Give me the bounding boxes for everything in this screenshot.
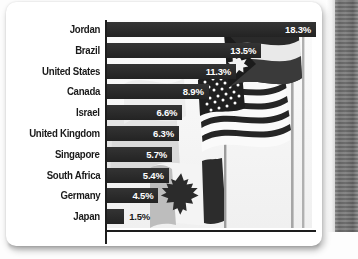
bar-value-label: 18.3% — [285, 22, 311, 37]
bar-row: United Kingdom6.3% — [20, 126, 316, 141]
scan-binding-edge — [335, 0, 358, 232]
bar-value-label: 6.3% — [153, 126, 174, 141]
bar-row: Singapore5.7% — [20, 147, 316, 162]
bar-category-label: Brazil — [75, 43, 100, 58]
bar-category-label: United Kingdom — [29, 126, 100, 141]
bar: 8.9% — [107, 84, 209, 99]
bar-value-label: 11.3% — [206, 64, 231, 79]
bar-row: South Africa5.4% — [20, 168, 316, 183]
bar-row: Jordan18.3% — [20, 22, 316, 37]
bar-value-label: 4.5% — [133, 188, 154, 203]
bar: 13.5% — [107, 43, 261, 58]
bar: 5.7% — [107, 147, 172, 162]
bar-row: Germany4.5% — [20, 188, 316, 203]
bar: 6.3% — [107, 126, 179, 141]
bar: 5.4% — [107, 168, 169, 183]
bar-category-label: Israel — [76, 105, 100, 120]
book-page-card: Jordan18.3%Brazil13.5%United States11.3%… — [6, 2, 322, 246]
bar: 6.6% — [107, 105, 182, 120]
bar-value-label: 13.5% — [230, 43, 256, 58]
bar-category-label: United States — [42, 64, 100, 79]
bar-texture — [107, 209, 124, 224]
bar-row: Japan1.5% — [20, 209, 316, 224]
bar-value-label: 1.5% — [129, 209, 150, 224]
bar-category-label: Japan — [73, 209, 100, 224]
bar-category-label: Germany — [60, 188, 100, 203]
bar — [107, 209, 124, 224]
bar: 18.3% — [107, 22, 316, 37]
bar-category-label: Canada — [67, 84, 100, 99]
bar-category-label: Singapore — [55, 147, 100, 162]
bar-row: Brazil13.5% — [20, 43, 316, 58]
bar-value-label: 5.7% — [146, 147, 167, 162]
bar: 11.3% — [107, 64, 236, 79]
bar-category-label: Jordan — [69, 22, 100, 37]
screenshot-stage: Jordan18.3%Brazil13.5%United States11.3%… — [0, 0, 358, 259]
bar-value-label: 6.6% — [157, 105, 178, 120]
page-edge-gutter — [326, 0, 335, 232]
bar: 4.5% — [107, 188, 158, 203]
bar-row: Israel6.6% — [20, 105, 316, 120]
bar-row: United States11.3% — [20, 64, 316, 79]
bar-chart: Jordan18.3%Brazil13.5%United States11.3%… — [20, 16, 316, 236]
bar-rows: Jordan18.3%Brazil13.5%United States11.3%… — [20, 16, 316, 228]
bar-value-label: 8.9% — [183, 84, 204, 99]
bar-category-label: South Africa — [46, 168, 100, 183]
bar-row: Canada8.9% — [20, 84, 316, 99]
x-axis-baseline — [105, 230, 316, 232]
bar-value-label: 5.4% — [143, 168, 164, 183]
